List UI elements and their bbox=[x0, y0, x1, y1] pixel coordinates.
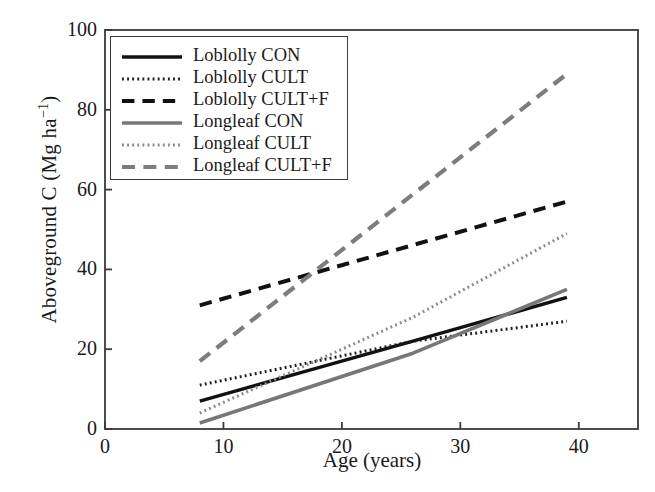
legend-label: Longleaf CULT bbox=[193, 134, 311, 153]
y-tick-label-1: 20 bbox=[51, 337, 97, 360]
figure: Aboveground C (Mg ha−1) Age (years) 0204… bbox=[0, 0, 655, 492]
y-tick-label-4: 80 bbox=[51, 98, 97, 121]
y-tick-label-3: 60 bbox=[51, 178, 97, 201]
legend-item-loblolly-cult-f[interactable]: Loblolly CULT+F bbox=[111, 88, 347, 110]
legend-key-swatch bbox=[121, 71, 183, 83]
legend-key-swatch bbox=[121, 159, 183, 171]
legend-label: Loblolly CON bbox=[193, 46, 300, 65]
legend-rows: Loblolly CONLoblolly CULTLoblolly CULT+F… bbox=[111, 44, 347, 176]
legend-item-loblolly-con[interactable]: Loblolly CON bbox=[111, 44, 347, 66]
legend-item-longleaf-cult[interactable]: Longleaf CULT bbox=[111, 132, 347, 154]
legend-key-swatch bbox=[121, 49, 183, 61]
legend-label: Longleaf CULT+F bbox=[193, 156, 332, 175]
legend-key-swatch bbox=[121, 93, 183, 105]
series-line-longleaf-con bbox=[200, 289, 567, 423]
legend-key-swatch bbox=[121, 115, 183, 127]
series-line-loblolly-cult bbox=[200, 321, 567, 385]
legend-key-swatch bbox=[121, 137, 183, 149]
legend-label: Loblolly CULT+F bbox=[193, 90, 329, 109]
series-line-loblolly-cult-f bbox=[200, 202, 567, 306]
legend-item-loblolly-cult[interactable]: Loblolly CULT bbox=[111, 66, 347, 88]
x-tick-label-1: 10 bbox=[193, 435, 253, 458]
legend-item-longleaf-cult-f[interactable]: Longleaf CULT+F bbox=[111, 154, 347, 176]
x-tick-label-0: 0 bbox=[75, 435, 135, 458]
x-tick-label-2: 20 bbox=[312, 435, 372, 458]
legend-label: Longleaf CON bbox=[193, 112, 303, 131]
legend-label: Loblolly CULT bbox=[193, 68, 308, 87]
x-tick-label-3: 30 bbox=[430, 435, 490, 458]
x-tick-label-4: 40 bbox=[549, 435, 609, 458]
y-tick-label-5: 100 bbox=[51, 18, 97, 41]
y-tick-label-2: 40 bbox=[51, 257, 97, 280]
legend: Loblolly CONLoblolly CULTLoblolly CULT+F… bbox=[110, 36, 348, 180]
legend-item-longleaf-con[interactable]: Longleaf CON bbox=[111, 110, 347, 132]
